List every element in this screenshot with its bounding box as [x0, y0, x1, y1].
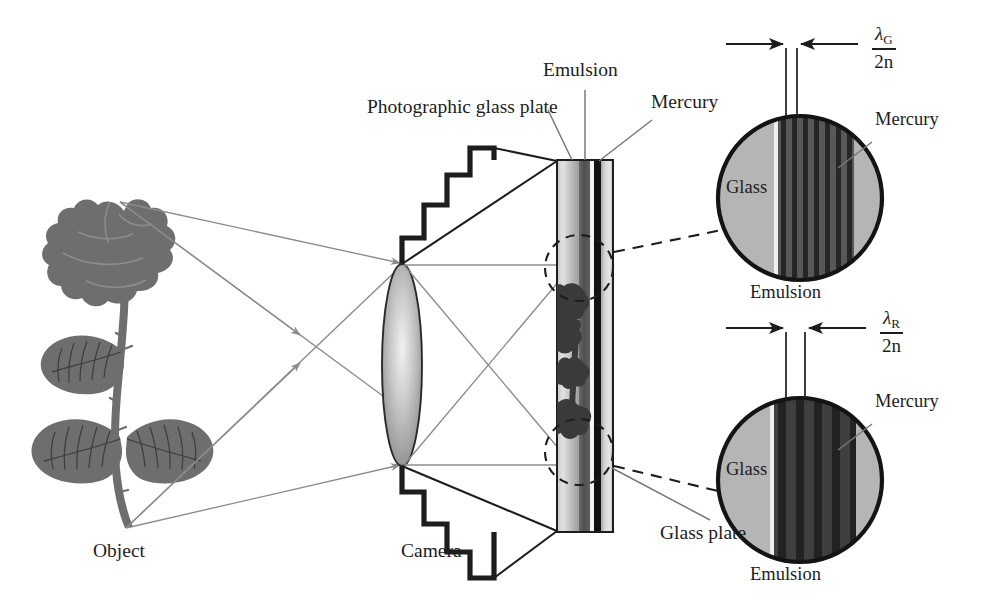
label-emulsion-top-circle: Emulsion	[750, 283, 821, 302]
leader-photographic-glass-plate	[548, 110, 572, 160]
leaf-lower-left	[32, 419, 123, 483]
lambda-red-denominator: 2n	[880, 336, 903, 355]
leaf-upper-left	[41, 335, 124, 394]
leader-glass-plate	[612, 468, 710, 520]
figure-canvas: Photographic glass plate Emulsion Mercur…	[0, 0, 1002, 614]
lambda-red-numerator: λR	[880, 308, 903, 330]
green-spacing-indicator	[726, 44, 858, 116]
label-emulsion-bottom-circle: Emulsion	[750, 565, 821, 584]
lambda-green-denominator: 2n	[872, 52, 896, 71]
label-mercury-plate: Mercury	[651, 92, 718, 112]
label-object: Object	[93, 541, 145, 561]
detail-circle-green	[718, 110, 884, 286]
label-emulsion-plate: Emulsion	[543, 60, 618, 80]
label-mercury-top-circle: Mercury	[875, 110, 939, 129]
diagram-vector-layer	[0, 0, 1002, 614]
fraction-bar-red	[880, 332, 903, 334]
leader-mercury-plate	[599, 120, 652, 161]
annotation-lambda-green: λG 2n	[872, 24, 896, 71]
label-photographic-glass-plate: Photographic glass plate	[367, 97, 558, 117]
red-spacing-indicator	[726, 328, 866, 398]
label-mercury-bottom-circle: Mercury	[875, 392, 939, 411]
detail-leader-dashes	[614, 230, 722, 492]
annotation-lambda-red: λR 2n	[880, 308, 903, 355]
photographic-plate-assembly	[535, 160, 613, 532]
camera-lens	[382, 264, 422, 466]
label-glass-bottom-circle: Glass	[726, 460, 767, 479]
object-rose-silhouette	[32, 199, 214, 528]
leaf-lower-right	[126, 419, 214, 483]
fraction-bar-green	[872, 48, 896, 50]
lambda-green-numerator: λG	[872, 24, 896, 46]
light-rays-lens-to-plate	[404, 265, 570, 465]
leader-to-bottom-circle	[614, 466, 722, 492]
label-glass-top-circle: Glass	[726, 178, 767, 197]
label-glass-plate: Glass plate	[660, 523, 746, 543]
leader-to-top-circle	[614, 230, 722, 252]
label-camera: Camera	[401, 541, 462, 561]
